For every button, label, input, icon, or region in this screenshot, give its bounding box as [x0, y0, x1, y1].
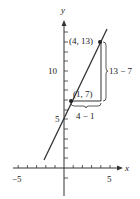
y-tick-label-10: 10 [48, 66, 58, 76]
x-tick-label-5: 5 [107, 174, 112, 184]
rise-label: 13 − 7 [109, 66, 133, 76]
point-label-1-7: (1, 7) [73, 89, 93, 99]
x-axis-label: x [124, 163, 129, 173]
x-axis-arrow-icon [117, 166, 123, 171]
x-tick-label-neg5: −5 [12, 174, 22, 184]
rise-brace-icon [103, 42, 108, 101]
point-4-13 [98, 40, 102, 44]
run-label: 4 − 1 [76, 111, 95, 121]
point-1-7 [69, 99, 73, 103]
y-tick-label-5: 5 [55, 114, 60, 124]
run-brace-icon [71, 103, 101, 108]
y-axis-arrow-icon [62, 20, 67, 26]
slope-diagram: y x −5 5 5 10 (1, 7) (4, 13) 13 − 7 4 − … [0, 0, 140, 199]
y-ticks [64, 32, 68, 178]
y-axis-label: y [60, 5, 65, 15]
point-label-4-13: (4, 13) [69, 36, 93, 46]
